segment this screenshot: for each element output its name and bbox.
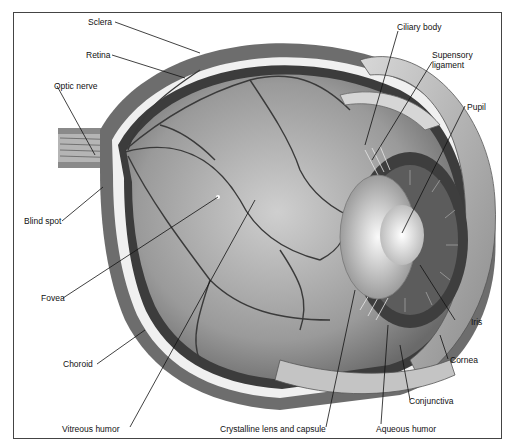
label-suspensory-ligament-line2: ligament <box>432 60 464 70</box>
label-optic-nerve: Optic nerve <box>54 81 97 91</box>
label-ciliary-body: Ciliary body <box>397 22 441 32</box>
label-conjunctiva: Conjunctiva <box>409 396 453 406</box>
label-blind-spot: Blind spot <box>24 216 61 226</box>
label-pupil: Pupil <box>467 102 486 112</box>
label-cornea: Cornea <box>450 355 478 365</box>
label-retina: Retina <box>86 50 111 60</box>
label-fovea: Fovea <box>41 293 65 303</box>
pupil-shape <box>380 205 424 265</box>
label-aqueous-humor: Aqueous humor <box>376 424 436 434</box>
label-choroid: Choroid <box>63 359 93 369</box>
label-crystalline-lens: Crystalline lens and capsule <box>220 424 326 434</box>
label-vitreous-humor: Vitreous humor <box>62 424 119 434</box>
label-sclera: Sclera <box>88 17 112 27</box>
label-iris: Iris <box>471 317 482 327</box>
label-suspensory-ligament-line1: Supensory <box>432 50 473 60</box>
